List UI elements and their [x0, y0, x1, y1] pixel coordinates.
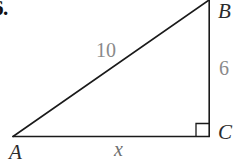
geometry-figure: 6. A B C 10 6 x: [0, 0, 242, 166]
problem-number: 6.: [0, 0, 8, 19]
hypotenuse-length-label: 10: [96, 40, 116, 60]
vertex-label-b: B: [218, 1, 231, 22]
vertex-label-c: C: [218, 122, 232, 143]
vertex-label-a: A: [9, 142, 22, 163]
vertical-leg-length-label: 6: [219, 58, 229, 78]
hypotenuse-line: [13, 0, 209, 137]
right-angle-marker-icon: [196, 124, 209, 137]
horizontal-leg-variable-label: x: [114, 139, 123, 159]
